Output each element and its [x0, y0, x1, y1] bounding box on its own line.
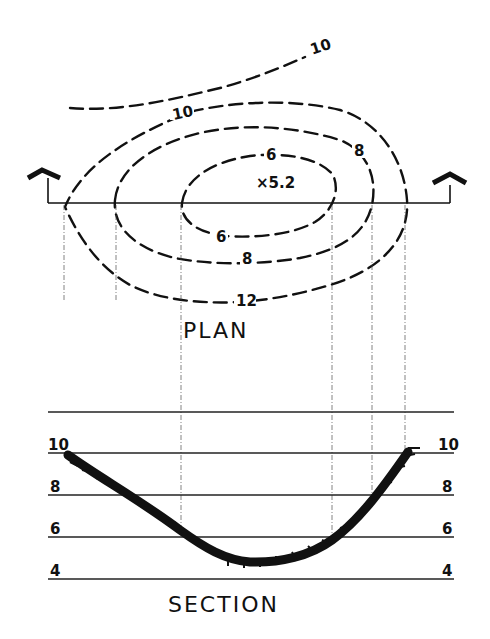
elev-right-10: 10: [438, 436, 459, 454]
section-ground-profile: [68, 452, 408, 562]
contour-ring-8: [115, 127, 374, 263]
label-ring-6-upper: 6: [266, 146, 276, 164]
elev-right-8: 8: [442, 478, 452, 496]
elev-left-10: 10: [48, 436, 69, 454]
label-ring-12: 12: [236, 292, 257, 310]
plan-title: PLAN: [183, 318, 249, 343]
elev-left-4: 4: [50, 562, 60, 580]
section-arrow-right-icon: [433, 174, 466, 183]
section-arrow-left-icon: [28, 170, 60, 178]
elev-left-6: 6: [50, 520, 60, 538]
contour-ring-6: [182, 155, 336, 237]
spot-elevation: ×5.2: [256, 174, 295, 192]
label-ring-10: 10: [171, 102, 195, 124]
section-title: SECTION: [168, 592, 279, 617]
contour-outer-10: [70, 57, 305, 109]
section-view: 10 8 6 4 10 8 6 4 SECTION: [48, 412, 459, 617]
elev-left-8: 8: [50, 478, 60, 496]
elev-right-4: 4: [442, 562, 452, 580]
contour-plan-section-diagram: 10 10 8 6 ×5.2 6 8 12 PLAN 10 8: [0, 0, 490, 639]
elev-right-6: 6: [442, 520, 452, 538]
label-ring-8-lower: 8: [242, 250, 252, 268]
plan-view: 10 10 8 6 ×5.2 6 8 12 PLAN: [28, 35, 466, 343]
label-ring-6-lower: 6: [216, 228, 226, 246]
label-ring-8-upper: 8: [354, 142, 364, 160]
